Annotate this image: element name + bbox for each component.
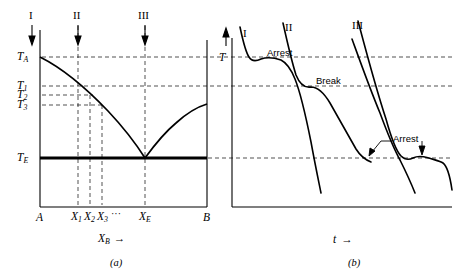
composition-label-X3-sub: 3 bbox=[104, 215, 108, 224]
arrest-leader-curve-III bbox=[369, 141, 392, 156]
temperature-label-T3: T3 bbox=[17, 99, 27, 112]
cooling-curve-III bbox=[352, 39, 415, 193]
cooling-curve-label-II: II bbox=[285, 22, 292, 33]
panel-b-x-axis-arrow: → bbox=[336, 233, 353, 245]
panel-b-temperature-axis-arrow bbox=[223, 28, 229, 46]
annotation-arrest-curve-I: Arrest bbox=[267, 48, 292, 58]
panel-b-y-axis-title: T bbox=[219, 52, 225, 64]
panel-b-caption: (b) bbox=[348, 258, 360, 269]
composition-label-A: A bbox=[36, 212, 43, 224]
panel-a-axes bbox=[40, 40, 207, 207]
temperature-label-TE: TE bbox=[17, 152, 28, 165]
composition-label-B: B bbox=[203, 212, 210, 224]
temperature-label-TE-sub: E bbox=[23, 156, 28, 165]
temperature-label-TA-sub: A bbox=[23, 55, 28, 64]
composition-label-X2-sub: 2 bbox=[91, 215, 95, 224]
alloy-arrow-II bbox=[75, 25, 81, 45]
composition-label-XE: XE bbox=[139, 211, 151, 224]
alloy-marker-arrows bbox=[29, 25, 148, 45]
liquidus-curve-left bbox=[40, 57, 145, 158]
arrest-leader-eutectic bbox=[419, 141, 425, 155]
panel-a-x-axis-arrow: → bbox=[110, 232, 126, 244]
liquidus-curve-right bbox=[145, 104, 207, 158]
figure-graphics bbox=[0, 0, 456, 276]
alloy-marker-III: III bbox=[138, 10, 149, 21]
temperature-label-T3-sub: 3 bbox=[23, 103, 27, 112]
panel-a-caption: (a) bbox=[110, 258, 122, 269]
figure-eutectic-phase-diagram-and-cooling-curves: TA T1 T2 T3 TE A X1 X2 X3 ··· XE B I II … bbox=[0, 0, 456, 276]
composition-label-ellipsis: ··· bbox=[111, 209, 121, 219]
composition-label-X2: X2 bbox=[84, 211, 95, 224]
temperature-label-TA: TA bbox=[17, 51, 28, 64]
alloy-marker-II: II bbox=[73, 10, 80, 21]
alloy-arrow-I bbox=[29, 25, 35, 45]
panel-b-x-axis-title: t→ bbox=[333, 234, 353, 246]
cooling-curve-II bbox=[283, 23, 371, 162]
composition-label-X1-sub: 1 bbox=[78, 215, 82, 224]
panel-a-x-axis-title: XB→ bbox=[98, 233, 125, 246]
composition-label-XE-sub: E bbox=[146, 215, 151, 224]
alloy-arrow-III bbox=[142, 25, 148, 45]
alloy-marker-I: I bbox=[29, 10, 33, 21]
cooling-curve-label-I: I bbox=[243, 28, 247, 39]
panel-b-axes bbox=[232, 38, 452, 207]
cooling-curve-eutectic bbox=[358, 21, 452, 190]
annotation-arrest-eutectic: Arrest bbox=[393, 134, 418, 144]
cooling-curve-label-III: III bbox=[352, 20, 363, 31]
composition-label-X1: X1 bbox=[71, 211, 82, 224]
annotation-break-curve-II: Break bbox=[316, 76, 341, 86]
composition-label-X3: X3 bbox=[97, 211, 108, 224]
